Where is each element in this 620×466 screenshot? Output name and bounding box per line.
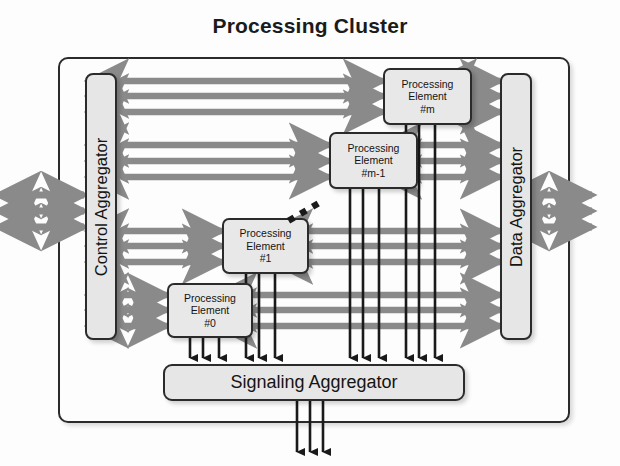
diagram-canvas: Processing Cluster (0, 0, 620, 466)
diagonal-ellipsis-icon (0, 0, 620, 466)
